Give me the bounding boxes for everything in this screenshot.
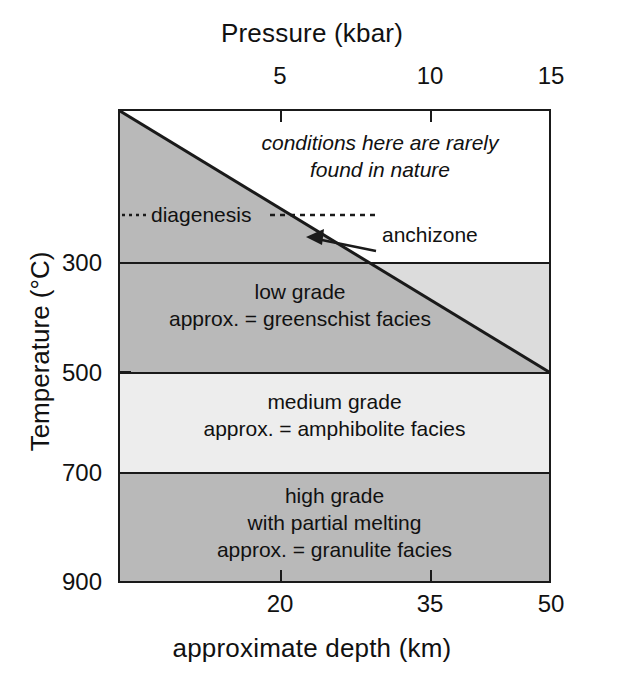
bottom-tick-label-50: 50: [521, 590, 581, 618]
diagenesis-label: diagenesis: [151, 203, 251, 227]
anchizone-label: anchizone: [382, 223, 478, 247]
metamorphic-grade-diagram: Pressure (kbar) 5 10 15 Temperature (°C)…: [0, 0, 624, 680]
isotherm-line-500: [120, 372, 549, 374]
bottom-axis-title: approximate depth (km): [0, 633, 624, 664]
left-tickmark-500: [120, 371, 131, 373]
top-tick-label-5: 5: [250, 62, 310, 90]
rare-conditions-note: conditions here are rarely found in natu…: [230, 129, 530, 183]
low-grade-text: low grade approx. = greenschist facies: [120, 278, 480, 332]
isotherm-line-700: [120, 472, 549, 474]
isotherm-line-300: [120, 262, 549, 264]
high-grade-line-1: high grade: [120, 482, 549, 509]
high-grade-line-3: approx. = granulite facies: [120, 536, 549, 563]
high-grade-text: high grade with partial melting approx. …: [120, 482, 549, 563]
left-tick-label-700: 700: [62, 459, 102, 487]
bottom-tickmark-20: [280, 570, 282, 581]
rare-conditions-line-2: found in nature: [230, 156, 530, 183]
bottom-tick-label-35: 35: [400, 590, 460, 618]
bottom-tickmark-35: [430, 570, 432, 581]
rare-conditions-line-1: conditions here are rarely: [230, 129, 530, 156]
high-grade-line-2: with partial melting: [120, 509, 549, 536]
top-tick-label-10: 10: [400, 62, 460, 90]
left-tick-label-group: 300 500 700 900: [0, 0, 110, 680]
bottom-tick-label-20: 20: [250, 590, 310, 618]
left-tick-label-300: 300: [62, 249, 102, 277]
low-grade-line-2: approx. = greenschist facies: [120, 305, 480, 332]
left-tick-label-900: 900: [62, 568, 102, 596]
medium-grade-line-2: approx. = amphibolite facies: [120, 415, 549, 442]
top-tick-label-15: 15: [521, 62, 581, 90]
left-tick-label-500: 500: [62, 359, 102, 387]
plot-area: conditions here are rarely found in natu…: [118, 109, 551, 583]
top-tickmark-10: [430, 111, 432, 122]
low-grade-line-1: low grade: [120, 278, 480, 305]
medium-grade-line-1: medium grade: [120, 388, 549, 415]
medium-grade-text: medium grade approx. = amphibolite facie…: [120, 388, 549, 442]
top-tickmark-5: [280, 111, 282, 122]
